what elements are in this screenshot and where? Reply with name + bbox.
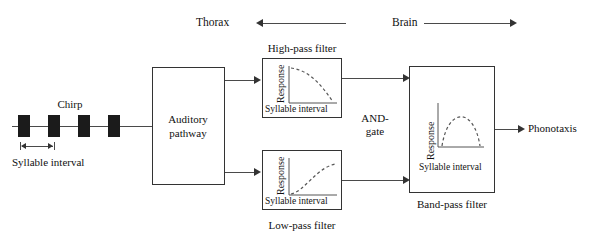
auditory-to-lowpass-line [225,172,255,173]
high-pass-filter-box[interactable]: Response Syllable interval [262,58,342,118]
band-pass-ylabel: Response [425,122,436,160]
phonotaxis-output-label: Phonotaxis [528,122,577,135]
interval-right-arrow-icon [48,143,53,149]
band-pass-filter-caption: Band-pass filter [417,198,487,211]
interval-left-arrow-icon [21,143,26,149]
right-arrow-icon [510,19,517,27]
lowpass-to-bandpass-line [342,180,405,181]
interval-tick-right [54,142,55,150]
high-pass-xlabel: Syllable interval [265,104,328,114]
low-pass-ylabel: Response [275,157,286,195]
low-pass-filter-box[interactable]: Response Syllable interval [262,150,342,210]
chirp-label: Chirp [57,98,82,111]
bandpass-to-output-line [495,129,519,130]
and-gate-label-line1: AND- [361,112,389,125]
low-pass-filter-caption: Low-pass filter [269,219,336,232]
left-arrow-icon [256,19,263,27]
auditory-pathway-label-line2: pathway [169,127,206,140]
chirp-pulse [18,115,30,137]
and-gate-label-line2: gate [366,125,384,138]
auditory-to-highpass-line [225,80,255,81]
diagram-canvas: Thorax Brain Chirp Syllable interval Aud… [0,0,594,248]
section-label-thorax: Thorax [196,16,229,28]
brain-right-arrow-line [424,23,510,24]
section-label-brain: Brain [392,16,418,28]
low-pass-xlabel: Syllable interval [265,196,328,206]
band-pass-xlabel: Syllable interval [419,162,482,172]
highpass-to-bandpass-line [342,78,405,79]
auditory-to-highpass-arrow-icon [254,76,261,84]
chirp-pulse [108,115,120,137]
high-pass-filter-caption: High-pass filter [268,42,337,55]
syllable-interval-label: Syllable interval [12,156,84,169]
brain-left-arrow-line [263,23,346,24]
auditory-pathway-label-line1: Auditory [168,113,208,126]
chirp-pulse [78,115,90,137]
auditory-to-lowpass-arrow-icon [254,168,261,176]
auditory-pathway-box[interactable] [152,67,225,185]
output-arrow-icon [518,125,525,133]
high-pass-ylabel: Response [275,65,286,103]
chirp-pulse [48,115,60,137]
